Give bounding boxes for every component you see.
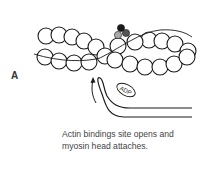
caption-line-1: Actin bindings site opens and [62, 128, 174, 140]
caption-line-2: myosin head attaches. [62, 140, 174, 152]
caption: Actin bindings site opens and myosin hea… [62, 128, 174, 152]
adp-molecule: ADP [115, 80, 138, 99]
myosin-head [98, 78, 192, 117]
binding-arrow-icon [91, 77, 97, 103]
troponin-complex [114, 24, 129, 38]
actin-myosin-diagram: ADP [0, 0, 206, 183]
